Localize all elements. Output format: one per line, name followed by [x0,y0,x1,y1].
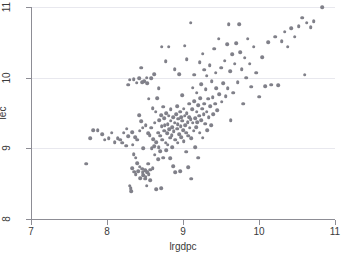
data-point [171,145,175,149]
data-point [191,86,195,90]
y-tick-label-wrap: 9 [0,148,24,149]
data-point [174,113,178,117]
data-point [226,86,230,90]
data-point [196,103,200,107]
data-point [156,157,160,161]
data-point [189,21,193,25]
data-point [149,77,153,81]
data-point [280,39,284,43]
data-point [144,123,148,127]
data-point [201,52,205,56]
data-point [243,56,247,60]
data-point [202,68,206,72]
x-tick-mark [259,220,260,225]
data-point [241,102,245,106]
data-point [145,76,149,80]
data-point [125,127,129,131]
data-point [203,122,207,126]
data-point [158,149,162,153]
y-tick-label: 9 [1,146,12,152]
data-point [312,19,316,23]
data-point [158,134,162,138]
data-point [246,37,250,41]
x-tick-label-wrap: 9 [183,226,184,227]
data-point [194,125,198,129]
data-point [96,128,100,132]
data-point [199,96,203,100]
data-point [164,60,168,64]
x-tick-label: 8 [104,226,110,237]
x-tick-label-wrap: 7 [31,226,32,227]
data-point [147,173,151,177]
data-point [174,171,178,175]
data-point [209,104,213,108]
data-point [193,99,197,103]
y-tick-mark [26,7,31,8]
data-point [145,184,149,188]
gridline-y [31,7,335,8]
data-point [149,126,153,130]
data-point [217,37,221,41]
data-point [130,130,134,134]
data-point [211,96,215,100]
x-tick-mark [107,220,108,225]
x-axis-title: lrgdpc [169,241,196,252]
data-point [231,53,235,57]
data-point [134,156,138,160]
data-point [85,162,89,166]
data-point [229,118,233,122]
data-point [166,143,170,147]
data-point [139,66,143,70]
data-point [273,35,277,39]
data-point [182,107,186,111]
data-point [147,97,151,101]
data-point [101,132,105,136]
data-point [134,173,138,177]
data-point [214,71,218,75]
plot-area [31,7,335,219]
y-tick-label-wrap: 8 [0,219,24,220]
data-point [139,120,143,124]
data-point [202,102,206,106]
data-point [320,5,324,9]
data-point [215,86,219,90]
gridline-y [31,78,335,79]
data-point [250,85,254,89]
data-point [234,41,238,45]
data-point [185,111,189,115]
data-point [233,62,237,66]
data-point [201,136,205,140]
data-point [212,113,216,117]
x-tick-mark [183,220,184,225]
data-point [92,128,96,132]
x-tick-label-wrap: 10 [259,226,260,227]
data-point [155,188,159,192]
data-point [180,135,184,139]
data-point [157,145,161,149]
data-point [177,72,181,76]
y-tick-label: 10 [1,72,12,83]
data-point [151,166,155,170]
data-point [199,82,203,86]
data-point [160,45,164,49]
data-point [303,73,307,77]
data-point [153,121,157,125]
data-point [231,91,235,95]
data-point [137,113,141,117]
data-point [218,92,222,96]
data-point [212,47,216,51]
data-point [178,169,182,173]
data-point [142,147,146,151]
data-point [180,119,184,123]
data-point [162,116,166,120]
data-point [157,86,161,90]
data-point [260,55,264,59]
data-point [193,145,197,149]
data-point [213,102,217,106]
data-point [152,144,156,148]
data-point [200,107,204,111]
data-point [197,114,201,118]
data-point [193,73,197,77]
data-point [205,110,209,114]
data-point [167,45,171,49]
